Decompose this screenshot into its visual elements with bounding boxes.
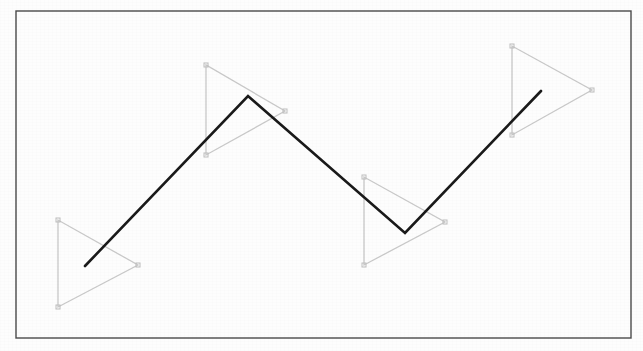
figure-container <box>0 0 643 351</box>
figure-svg-canvas <box>0 0 643 351</box>
figure-background <box>0 0 643 351</box>
